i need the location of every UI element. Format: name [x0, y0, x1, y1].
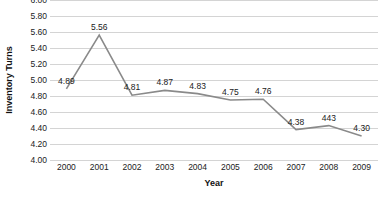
data-point-label: 4.81 — [124, 82, 141, 92]
y-axis-tick-label: 6.00 — [30, 0, 47, 5]
x-axis-tick-label: 2008 — [319, 162, 338, 172]
data-point-label: 4.75 — [222, 87, 239, 97]
y-axis-tick-label: 5.60 — [30, 27, 47, 37]
y-axis-tick-label: 4.20 — [30, 139, 47, 149]
gridline — [50, 160, 378, 161]
y-axis-tick-label: 4.00 — [30, 155, 47, 165]
data-point-label: 4.38 — [288, 117, 305, 127]
y-axis-tick-label: 5.40 — [30, 43, 47, 53]
x-axis-tick-label: 2006 — [254, 162, 273, 172]
x-axis-tick-label: 2007 — [287, 162, 306, 172]
y-axis-tick-label: 5.80 — [30, 11, 47, 21]
data-point-label: 4.83 — [189, 81, 206, 91]
x-axis-tick-label: 2002 — [123, 162, 142, 172]
y-axis-title-label: Inventory Turns — [4, 46, 14, 113]
plot-area: 4.895.564.814.874.834.754.764.384434.30 — [50, 0, 378, 160]
x-axis-tick-label: 2001 — [90, 162, 109, 172]
y-axis-tick-label: 5.20 — [30, 59, 47, 69]
x-axis-title: Year — [50, 178, 378, 188]
data-point-label: 443 — [322, 113, 336, 123]
y-axis-tick-label: 4.40 — [30, 123, 47, 133]
y-axis-tick-label: 5.00 — [30, 75, 47, 85]
x-axis-tick-labels: 2000200120022003200420052006200720082009 — [50, 162, 378, 178]
data-point-label: 4.76 — [255, 86, 272, 96]
y-axis-tick-label: 4.60 — [30, 107, 47, 117]
data-point-label: 4.87 — [157, 77, 174, 87]
x-axis-tick-label: 2003 — [155, 162, 174, 172]
inventory-turns-line-chart: Inventory Turns 6.005.805.605.405.205.00… — [0, 0, 381, 197]
x-axis-tick-label: 2004 — [188, 162, 207, 172]
x-axis-tick-label: 2005 — [221, 162, 240, 172]
data-point-label: 4.30 — [353, 123, 370, 133]
x-axis-tick-label: 2000 — [57, 162, 76, 172]
data-point-label: 4.89 — [58, 76, 75, 86]
x-axis-tick-label: 2009 — [352, 162, 371, 172]
y-axis-tick-labels: 6.005.805.605.405.205.004.804.604.404.20… — [18, 0, 50, 160]
data-point-label: 5.56 — [91, 22, 108, 32]
y-axis-tick-label: 4.80 — [30, 91, 47, 101]
y-axis-title: Inventory Turns — [0, 0, 18, 160]
